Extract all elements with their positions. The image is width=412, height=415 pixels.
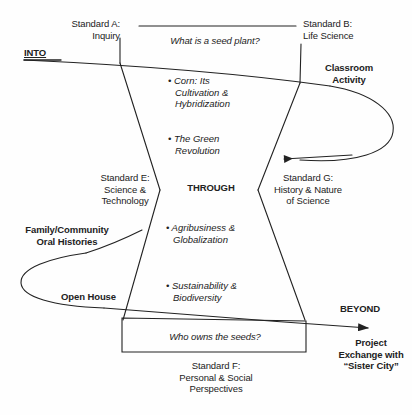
topic-green-revolution: • The Green Revolution: [168, 133, 271, 156]
into-label: INTO: [24, 47, 64, 59]
open-house-label: Open House: [61, 291, 141, 303]
bottom-question-label: Who owns the seeds?: [140, 331, 290, 343]
standard-a-label: Standard A: Inquiry: [56, 18, 120, 41]
standard-f-label: Standard F: Personal & Social Perspectiv…: [142, 360, 290, 395]
diagram-canvas: Standard A: Inquiry Standard B: Life Sci…: [0, 0, 412, 415]
classroom-activity-label: Classroom Activity: [306, 62, 392, 85]
standard-g-label: Standard G: History & Nature of Science: [256, 172, 360, 207]
top-question-label: What is a seed plant?: [140, 35, 290, 47]
classroom-activity-arrow: [284, 155, 352, 159]
beyond-label: BEYOND: [340, 303, 406, 315]
topic-corn: • Corn: Its Cultivation & Hybridization: [168, 75, 271, 110]
hourglass-upper-left-edge: [120, 63, 160, 190]
oral-histories-label: Family/Community Oral Histories: [10, 224, 124, 247]
topic-agribusiness: • Agribusiness & Globalization: [166, 222, 283, 245]
standard-b-stem: [300, 44, 301, 83]
project-exchange-label: Project Exchange with “Sister City”: [330, 337, 412, 372]
through-label: THROUGH: [168, 182, 254, 194]
standard-e-label: Standard E: Science & Technology: [84, 172, 166, 207]
classroom-activity-loop: [300, 86, 393, 161]
topic-sustainability: • Sustainability & Biodiversity: [166, 280, 289, 303]
standard-b-label: Standard B: Life Science: [303, 18, 403, 41]
